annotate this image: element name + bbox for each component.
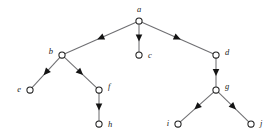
tree-node-b [59,52,65,58]
tree-node-label-b: b [49,46,53,56]
tree-node-a [136,18,142,24]
tree-node-label-c: c [148,50,152,60]
edge-arrowhead-icon [136,34,143,41]
nodes-layer [27,18,254,127]
tree-node-h [96,121,102,127]
tree-node-label-d: d [225,47,230,57]
tree-node-g [213,87,219,93]
tree-diagram-figure: abcdefghij [0,0,277,138]
edge-arrowhead-icon [96,103,103,110]
tree-node-label-a: a [137,4,141,14]
edge-arrowhead-icon [213,69,220,76]
tree-diagram-canvas: abcdefghij [0,0,277,138]
tree-node-label-e: e [17,84,21,94]
tree-node-e [27,87,33,93]
tree-node-c [136,52,142,58]
tree-node-label-j: j [259,118,263,128]
edges-layer [32,22,249,122]
tree-node-j [248,121,254,127]
tree-node-i [175,121,181,127]
tree-node-label-i: i [167,118,170,128]
tree-node-label-g: g [225,81,229,91]
tree-node-label-h: h [108,119,112,129]
tree-node-d [213,52,219,58]
tree-node-label-f: f [108,81,112,91]
tree-node-f [96,87,102,93]
